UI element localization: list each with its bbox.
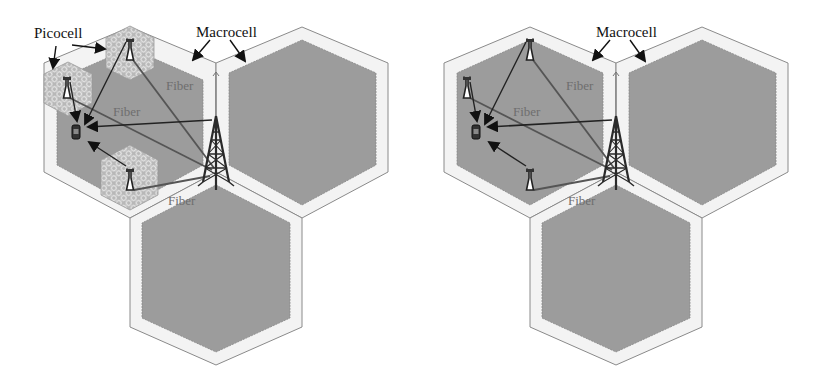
panel-with-picocells: Picocell Macrocell Fiber Fiber Fiber xyxy=(34,24,388,365)
mobile-phone-icon xyxy=(472,125,480,139)
picocell-label: Picocell xyxy=(34,25,82,41)
fiber-label: Fiber xyxy=(168,193,196,208)
network-diagram: Picocell Macrocell Fiber Fiber Fiber Mac… xyxy=(0,0,826,385)
mobile-phone-icon xyxy=(72,125,80,139)
fiber-label: Fiber xyxy=(566,78,594,93)
fiber-label: Fiber xyxy=(166,78,194,93)
fiber-label: Fiber xyxy=(113,104,141,119)
macrocell-label: Macrocell xyxy=(196,24,257,40)
macrocell-label: Macrocell xyxy=(596,24,657,40)
fiber-label: Fiber xyxy=(568,193,596,208)
panel-without-picocells: Macrocell Fiber Fiber Fiber xyxy=(444,24,788,365)
fiber-label: Fiber xyxy=(513,104,541,119)
